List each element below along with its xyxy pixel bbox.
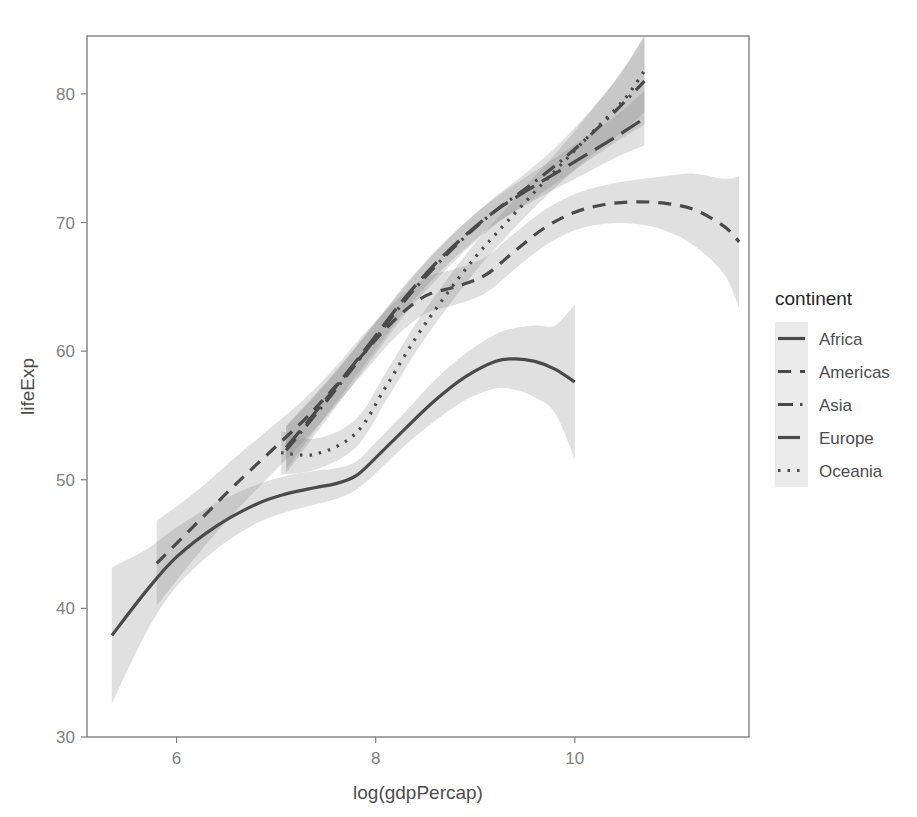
- y-tick-label: 60: [56, 342, 75, 361]
- y-axis-title: lifeExp: [17, 358, 38, 415]
- line-africa: [112, 359, 575, 636]
- x-tick-label: 10: [565, 749, 584, 768]
- ribbon-oceania: [281, 35, 644, 475]
- x-axis-title: log(gdpPercap): [353, 782, 483, 803]
- chart-svg: 3040506070806810log(gdpPercap)lifeExp co…: [0, 0, 917, 817]
- ribbon-asia: [286, 37, 644, 473]
- axes: 3040506070806810log(gdpPercap)lifeExp: [17, 36, 749, 803]
- x-tick-label: 6: [172, 749, 181, 768]
- y-tick-label: 40: [56, 599, 75, 618]
- y-tick-label: 80: [56, 85, 75, 104]
- legend-label-africa[interactable]: Africa: [819, 330, 863, 349]
- panel-border: [87, 36, 749, 737]
- legend-label-europe[interactable]: Europe: [819, 429, 874, 448]
- y-tick-label: 30: [56, 728, 75, 747]
- y-tick-label: 50: [56, 471, 75, 490]
- y-tick-label: 70: [56, 214, 75, 233]
- legend-label-asia[interactable]: Asia: [819, 396, 853, 415]
- confidence-ribbons: [112, 35, 739, 704]
- chart-container: 3040506070806810log(gdpPercap)lifeExp co…: [0, 0, 917, 817]
- x-tick-label: 8: [371, 749, 380, 768]
- legend-title: continent: [775, 288, 853, 309]
- legend: continentAfricaAmericasAsiaEuropeOceania: [775, 288, 890, 487]
- legend-label-americas[interactable]: Americas: [819, 363, 890, 382]
- legend-label-oceania[interactable]: Oceania: [819, 462, 883, 481]
